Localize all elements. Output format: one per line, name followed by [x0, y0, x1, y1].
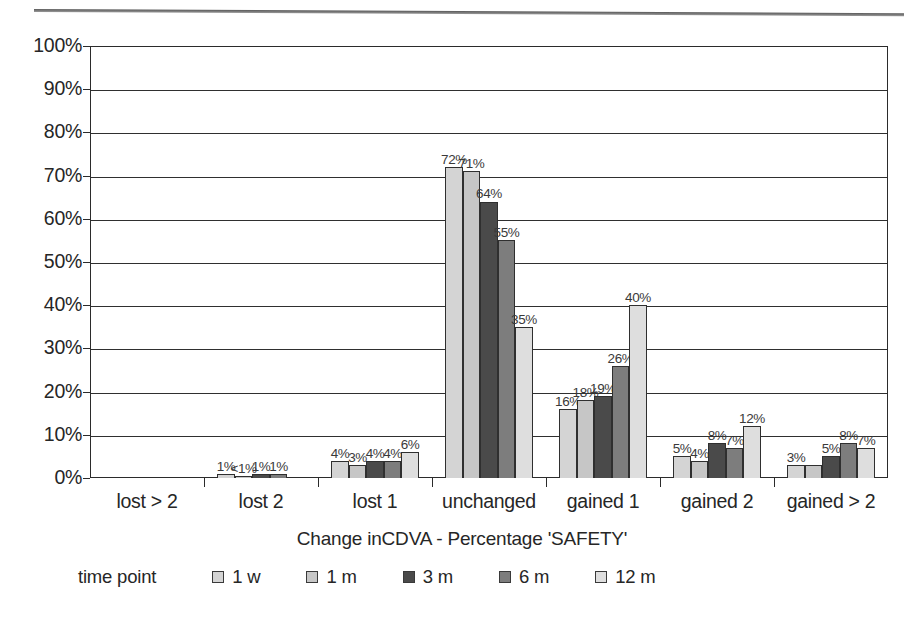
bar[interactable]: 71%	[463, 171, 481, 478]
legend-item-label: 12 m	[615, 566, 655, 588]
page-top-rule	[34, 9, 904, 16]
bar[interactable]: 19%	[594, 396, 612, 478]
bar[interactable]: 64%	[480, 202, 498, 478]
bar[interactable]: 55%	[498, 240, 516, 478]
bar-value-label: 8%	[839, 429, 858, 443]
y-axis-tick-label: 0%	[8, 466, 82, 489]
y-axis-tick-label: 30%	[8, 336, 82, 359]
y-axis-tick-mark	[83, 219, 90, 220]
y-axis-tick-labels: 100%90%80%70%60%50%40%30%20%10%0%	[0, 46, 82, 478]
legend-title: time point	[78, 566, 156, 588]
legend-swatch-icon	[403, 571, 415, 583]
y-axis-tick-mark	[83, 348, 90, 349]
bar[interactable]: 5%	[673, 456, 691, 478]
legend-swatch-icon	[595, 571, 607, 583]
y-axis-tick-label: 10%	[8, 423, 82, 446]
legend-swatch-icon	[306, 571, 318, 583]
bar-group-bars: 5%4%8%7%12%	[660, 46, 774, 478]
bar-value-label: 1%	[269, 460, 288, 474]
y-axis-tick-mark	[83, 89, 90, 90]
bar-group: 72%71%64%55%35%	[432, 46, 546, 478]
bar[interactable]: 40%	[629, 305, 647, 478]
bar-group-bars: 72%71%64%55%35%	[432, 46, 546, 478]
chart-legend: time point 1 w1 m3 m6 m12 m	[78, 566, 656, 588]
bar[interactable]: 7%	[857, 448, 875, 478]
bar[interactable]	[805, 465, 823, 478]
bar-value-label: 40%	[625, 291, 651, 305]
x-axis-category-label: gained 2	[681, 490, 753, 513]
chart-figure: 100%90%80%70%60%50%40%30%20%10%0% 1%<1%1…	[0, 0, 924, 632]
y-axis-tick-label: 60%	[8, 207, 82, 230]
bar-group-bars: 3%5%8%7%	[774, 46, 888, 478]
bar[interactable]: 35%	[515, 327, 533, 478]
legend-item-label: 1 m	[326, 566, 356, 588]
bar-value-label: 8%	[708, 429, 727, 443]
bar-value-label: 64%	[476, 187, 502, 201]
legend-item[interactable]: 6 m	[499, 566, 549, 588]
bar-value-label: 6%	[401, 438, 420, 452]
y-axis-tick-mark	[83, 132, 90, 133]
legend-item[interactable]: 1 w	[212, 566, 260, 588]
bar[interactable]: 18%	[577, 400, 595, 478]
legend-item-label: 6 m	[519, 566, 549, 588]
bar[interactable]: 4%	[691, 461, 709, 478]
bar[interactable]: 8%	[840, 443, 858, 478]
bar-value-label: 71%	[459, 157, 485, 171]
bar-value-label: 35%	[511, 313, 537, 327]
bar-group	[90, 46, 204, 478]
bar-value-label: 5%	[673, 442, 692, 456]
bar-group: 1%<1%1%1%	[204, 46, 318, 478]
bar[interactable]: 3%	[787, 465, 805, 478]
x-axis-tick-mark	[432, 478, 433, 487]
bar[interactable]: 3%	[349, 465, 367, 478]
bar-group-bars	[90, 46, 204, 478]
x-axis-tick-mark	[204, 478, 205, 487]
bar-value-label: 4%	[331, 447, 350, 461]
bar-value-label: 4%	[690, 447, 709, 461]
x-axis-title: Change inCDVA - Percentage 'SAFETY'	[0, 528, 924, 550]
bar[interactable]: 6%	[401, 452, 419, 478]
bar-group: 5%4%8%7%12%	[660, 46, 774, 478]
bar[interactable]: 26%	[612, 366, 630, 478]
bar-group-bars: 1%<1%1%1%	[204, 46, 318, 478]
bar[interactable]: 4%	[366, 461, 384, 478]
legend-item[interactable]: 3 m	[403, 566, 453, 588]
x-axis-category-labels: lost > 2lost 2lost 1unchangedgained 1gai…	[90, 490, 888, 520]
y-axis-tick-mark	[83, 392, 90, 393]
y-axis-tick-label: 100%	[8, 34, 82, 57]
y-axis-tick-label: 20%	[8, 380, 82, 403]
bar[interactable]: 16%	[559, 409, 577, 478]
x-axis-category-label: gained > 2	[787, 490, 876, 513]
x-axis-category-label: lost 2	[239, 490, 284, 513]
bar[interactable]: 12%	[743, 426, 761, 478]
bar-value-label: 7%	[857, 434, 876, 448]
y-axis-tick-label: 70%	[8, 164, 82, 187]
bar[interactable]: 7%	[726, 448, 744, 478]
x-axis-tick-mark	[318, 478, 319, 487]
legend-item-label: 3 m	[423, 566, 453, 588]
bar[interactable]: 72%	[445, 167, 463, 478]
legend-item[interactable]: 12 m	[595, 566, 655, 588]
legend-swatch-icon	[212, 571, 224, 583]
bar-group: 4%3%4%4%6%	[318, 46, 432, 478]
legend-swatch-icon	[499, 571, 511, 583]
x-axis-category-label: lost 1	[353, 490, 398, 513]
bar[interactable]: 5%	[822, 456, 840, 478]
y-axis-tick-label: 50%	[8, 250, 82, 273]
x-axis-tick-mark	[660, 478, 661, 487]
y-axis-tick-mark	[83, 46, 90, 47]
legend-item[interactable]: 1 m	[306, 566, 356, 588]
y-axis-tick-label: 90%	[8, 77, 82, 100]
bar[interactable]: 4%	[331, 461, 349, 478]
legend-item-label: 1 w	[232, 566, 260, 588]
bar-group-bars: 4%3%4%4%6%	[318, 46, 432, 478]
bar-value-label: 55%	[494, 226, 520, 240]
bar[interactable]: 8%	[708, 443, 726, 478]
y-axis-tick-mark	[83, 478, 90, 479]
y-axis-tick-mark	[83, 435, 90, 436]
bar-value-label: 3%	[787, 451, 806, 465]
y-axis-tick-label: 40%	[8, 293, 82, 316]
bar-value-label: 12%	[739, 412, 765, 426]
bar[interactable]: 4%	[384, 461, 402, 478]
bar-value-label: 5%	[822, 442, 841, 456]
